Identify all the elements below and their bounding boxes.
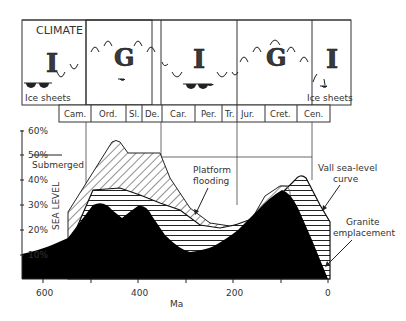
svg-text:curve: curve	[333, 174, 359, 184]
y-axis-ticks: 60% 50% 40% 30% 20% 10%	[20, 126, 48, 260]
svg-text:400: 400	[131, 288, 148, 298]
period-devonian: De.	[145, 109, 159, 119]
period-cretaceous: Cret.	[270, 109, 291, 119]
period-cenozoic: Cen.	[304, 109, 323, 119]
diagram-canvas: CLIMATE I Ice sheets G I G I Ice sh	[0, 0, 406, 321]
greenhouse-icon: G	[266, 43, 287, 72]
climate-title: CLIMATE	[36, 24, 83, 37]
icehouse-icon: I	[46, 48, 58, 78]
svg-text:10%: 10%	[28, 250, 48, 260]
y-axis-label: SEA LEVEL	[51, 182, 61, 230]
svg-text:200: 200	[226, 288, 243, 298]
svg-text:40%: 40%	[28, 175, 48, 185]
svg-text:Granite: Granite	[346, 217, 380, 227]
svg-text:Vall sea-level: Vall sea-level	[318, 163, 377, 173]
period-carboniferous: Car.	[170, 109, 187, 119]
climate-panel: CLIMATE I Ice sheets G I G I Ice sh	[22, 20, 353, 105]
period-silurian: Sl.	[129, 109, 139, 119]
x-axis-label: Ma	[170, 299, 183, 309]
sea-level-chart	[22, 130, 330, 279]
svg-text:emplacement: emplacement	[333, 228, 396, 238]
platform-flooding-annotation: Platform flooding	[193, 165, 231, 215]
submerged-label: Submerged	[32, 160, 84, 170]
svg-text:600: 600	[36, 288, 53, 298]
icehouse-icon: I	[193, 44, 205, 74]
period-bar: Cam. Ord. Sl. De. Car. Per. Tr. Jur. Cre…	[59, 105, 330, 122]
ice-sheets-label-right: Ice sheets	[307, 93, 353, 103]
svg-text:0: 0	[325, 288, 331, 298]
period-permian: Per.	[201, 109, 216, 119]
icehouse-icon: I	[326, 44, 338, 74]
ice-sheet-icon	[24, 83, 52, 88]
svg-text:Platform: Platform	[193, 165, 231, 175]
svg-text:60%: 60%	[28, 126, 48, 136]
period-jurassic: Jur.	[240, 109, 254, 119]
granite-annotation: Granite emplacement	[325, 217, 396, 267]
ice-sheets-label-left: Ice sheets	[25, 93, 71, 103]
greenhouse-icon: G	[114, 43, 135, 72]
svg-text:30%: 30%	[28, 200, 48, 210]
svg-text:20%: 20%	[28, 225, 48, 235]
period-cambrian: Cam.	[64, 109, 86, 119]
svg-text:50%: 50%	[28, 150, 48, 160]
vail-curve-annotation: Vall sea-level curve	[318, 163, 377, 211]
period-triassic: Tr.	[224, 109, 234, 119]
period-ordovician: Ord.	[99, 109, 117, 119]
svg-text:flooding: flooding	[193, 176, 229, 186]
x-axis-ticks: 600 400 200 0	[36, 279, 331, 298]
